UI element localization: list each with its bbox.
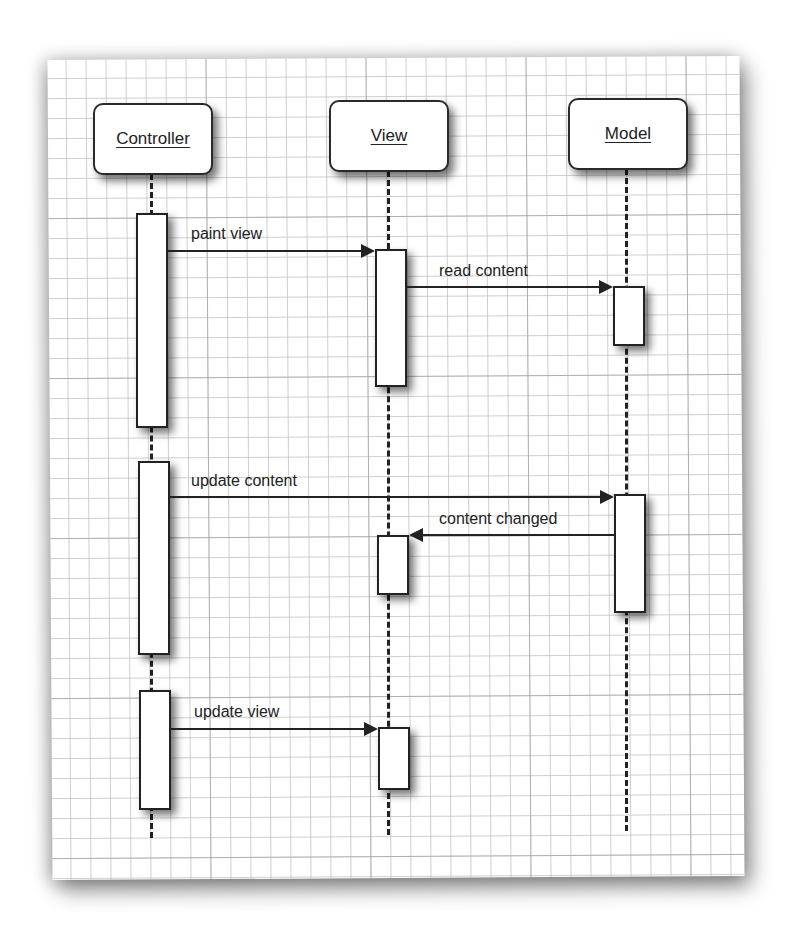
actor-model: Model	[568, 98, 688, 170]
message-label-content-changed: content changed	[439, 510, 557, 528]
controller-activation-1	[136, 213, 168, 428]
view-activation-3	[378, 727, 410, 790]
actor-controller-label: Controller	[116, 129, 190, 149]
message-arrow-read-content	[407, 286, 611, 288]
actor-view-label: View	[371, 126, 408, 146]
message-arrow-content-changed	[411, 534, 614, 536]
view-activation-2	[377, 535, 409, 595]
model-activation-1	[613, 286, 645, 346]
message-label-paint-view: paint view	[191, 225, 262, 243]
model-activation-2	[614, 494, 646, 613]
message-label-update-content: update content	[191, 472, 297, 490]
actor-model-label: Model	[605, 124, 651, 144]
message-arrow-update-view	[171, 728, 376, 730]
actor-controller: Controller	[93, 103, 213, 175]
view-activation-1	[375, 249, 407, 387]
message-label-update-view: update view	[194, 703, 279, 721]
actor-view: View	[329, 100, 449, 172]
message-label-read-content: read content	[439, 262, 528, 280]
message-arrow-paint-view	[168, 250, 373, 252]
controller-activation-3	[139, 690, 171, 810]
controller-activation-2	[138, 461, 170, 655]
message-arrow-update-content	[170, 496, 612, 498]
